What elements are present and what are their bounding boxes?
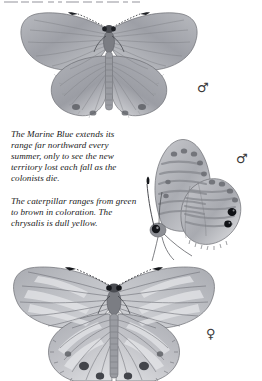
illustration-female-upperside [4, 258, 224, 381]
illustration-male-underside [128, 130, 248, 262]
symbol-male-upperside: ♂ [197, 81, 209, 94]
illustration-male-upperside [14, 4, 204, 124]
field-guide-page: ♂ The Marine Blue extends its range far … [0, 0, 262, 381]
caption-range-note: The Marine Blue extends its range far no… [11, 129, 135, 184]
caption-larva-note: The caterpillar ranges from green to bro… [11, 196, 143, 229]
symbol-male-underside: ♂ [236, 152, 248, 165]
symbol-female-upperside: ♀ [206, 327, 216, 340]
